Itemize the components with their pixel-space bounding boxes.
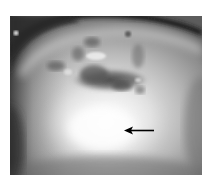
grayscale-photograph [10, 16, 202, 175]
left-arrow-icon [124, 126, 154, 135]
figure-canvas [0, 0, 212, 183]
photo-render [10, 16, 202, 175]
